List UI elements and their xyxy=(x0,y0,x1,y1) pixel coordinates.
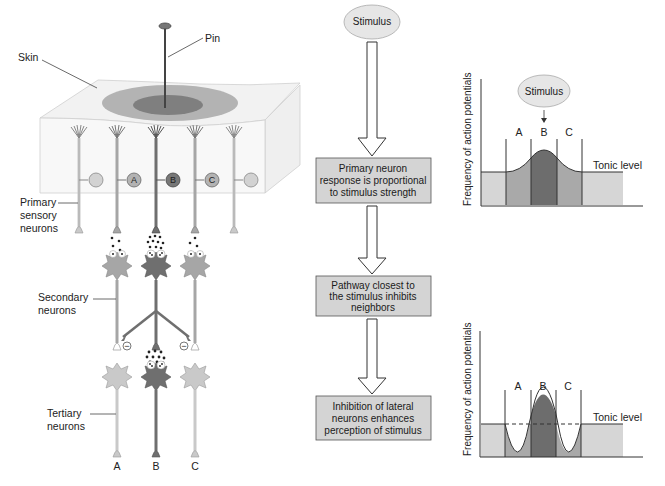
flow-arrow-3 xyxy=(358,319,386,394)
svg-text:C: C xyxy=(564,380,572,392)
flow-arrow-2 xyxy=(358,206,386,274)
svg-text:C: C xyxy=(209,175,216,185)
svg-text:C: C xyxy=(565,126,573,138)
pin-leader xyxy=(168,38,203,57)
graph-top: Frequency of action potentials A B C Ton… xyxy=(462,73,643,206)
svg-text:Primary neuron: Primary neuron xyxy=(339,163,407,174)
svg-text:perception of stimulus: perception of stimulus xyxy=(324,425,421,436)
tertiary-neuron-c xyxy=(180,363,210,391)
primary-label-line1: Primary xyxy=(20,196,57,208)
secondary-neurons: − − xyxy=(102,250,210,351)
pathway-label-b: B xyxy=(152,460,159,472)
flow-arrow-1 xyxy=(358,42,386,156)
tertiary-label-line1: Tertiary xyxy=(47,407,82,419)
flowchart: Stimulus Primary neuron response is prop… xyxy=(316,5,431,440)
svg-text:to stimulus strength: to stimulus strength xyxy=(330,187,417,198)
secondary-label-line1: Secondary xyxy=(38,291,89,303)
svg-text:neighbors: neighbors xyxy=(351,302,395,313)
graph-bottom-ylabel: Frequency of action potentials xyxy=(462,323,473,456)
skin-label: Skin xyxy=(18,51,39,63)
tertiary-neuron-b xyxy=(141,361,171,391)
svg-text:−: − xyxy=(124,341,129,351)
secondary-label-line2: neurons xyxy=(38,304,76,316)
svg-text:response is proportional: response is proportional xyxy=(320,175,427,186)
pathway-label-c: C xyxy=(191,460,199,472)
svg-text:Inhibition of lateral: Inhibition of lateral xyxy=(332,401,413,412)
svg-text:A: A xyxy=(515,126,522,138)
lateral-inhibition-figure: Pin Skin A B xyxy=(0,0,665,486)
secondary-neuron-a xyxy=(102,251,132,281)
inhibitory-synapse-a: − xyxy=(123,341,131,351)
pathway-label-a: A xyxy=(113,460,120,472)
graph-bottom: Frequency of action potentials A B C Ton… xyxy=(462,323,643,457)
svg-text:B: B xyxy=(170,175,176,185)
graph-top-tonic-label: Tonic level xyxy=(593,159,642,171)
svg-text:−: − xyxy=(181,341,186,351)
svg-text:B: B xyxy=(540,126,547,138)
graph-bottom-tonic-label: Tonic level xyxy=(593,411,642,423)
svg-text:Pathway closest to: Pathway closest to xyxy=(331,280,415,291)
primary-label-line2: sensory xyxy=(20,209,58,221)
svg-text:B: B xyxy=(539,380,546,392)
secondary-neuron-c xyxy=(180,251,210,281)
graph-top-ylabel: Frequency of action potentials xyxy=(462,73,473,206)
stimulus-label: Stimulus xyxy=(353,16,391,27)
svg-text:neurons enhances: neurons enhances xyxy=(332,413,414,424)
tertiary-label-line2: neurons xyxy=(47,420,85,432)
primary-label-line3: neurons xyxy=(20,222,58,234)
inhibitory-synapse-c: − xyxy=(180,341,188,351)
svg-text:A: A xyxy=(131,175,137,185)
pin-label: Pin xyxy=(205,32,220,44)
skin-leader xyxy=(42,60,97,88)
secondary-neuron-b xyxy=(141,250,171,280)
receptive-field-inner xyxy=(133,95,203,115)
svg-text:A: A xyxy=(514,380,521,392)
tertiary-neuron-a xyxy=(102,363,132,391)
tertiary-neurons xyxy=(102,361,210,457)
svg-text:the stimulus inhibits: the stimulus inhibits xyxy=(329,291,416,302)
svg-text:Stimulus: Stimulus xyxy=(525,86,563,97)
